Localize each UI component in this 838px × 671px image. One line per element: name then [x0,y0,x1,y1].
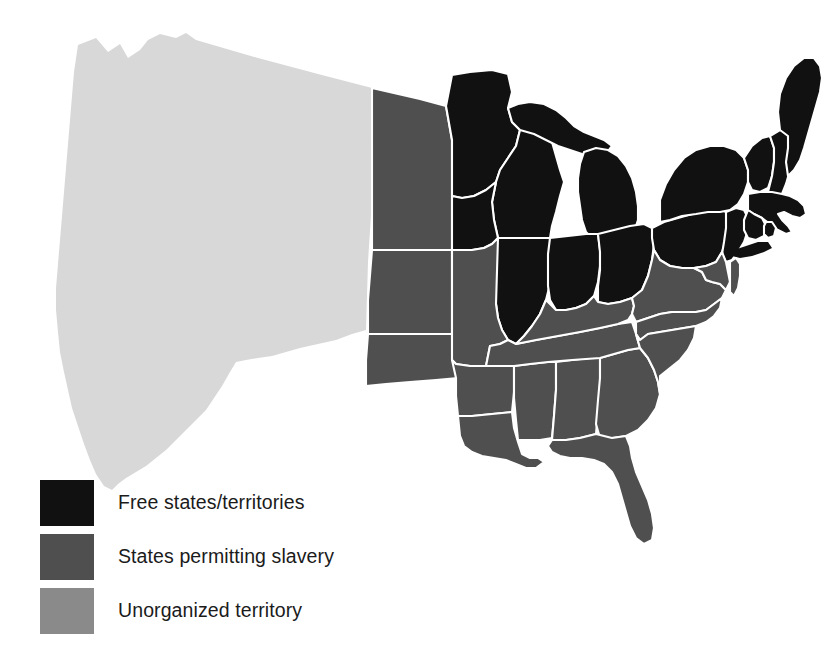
legend-item-unorganized-territory: Unorganized territory [40,588,460,634]
legend-item-free-states: Free states/territories [40,480,460,526]
slave-states-swatch [40,534,94,580]
region-florida [548,434,654,544]
region-alabama [552,358,600,440]
region-arkansas [452,360,514,416]
region-indian-territory [366,334,458,386]
region-nebraska-territory [372,88,452,250]
region-far-west-unorganized [56,33,372,490]
map-legend: Free states/territories States permittin… [40,480,460,642]
unorganized-territory-swatch [40,588,94,634]
legend-item-slave-states: States permitting slavery [40,534,460,580]
legend-label-free-states: Free states/territories [118,493,305,513]
unorganized-territory-group [56,33,372,490]
legend-label-unorganized-territory: Unorganized territory [118,601,302,621]
slave-territories-group [366,88,458,386]
free-states-swatch [40,480,94,526]
region-delaware [730,258,740,296]
region-mississippi [514,362,556,440]
map-figure: Free states/territories States permittin… [0,0,838,671]
legend-label-slave-states: States permitting slavery [118,547,334,567]
region-kansas-territory [368,250,452,334]
region-rhode-island [764,222,776,238]
